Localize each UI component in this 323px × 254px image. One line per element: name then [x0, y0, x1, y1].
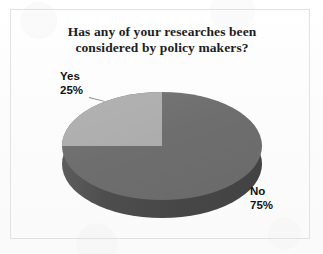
pie-label-yes-name: Yes — [60, 70, 83, 84]
pie-label-no-value: 75% — [250, 199, 273, 213]
pie-slice-yes[interactable] — [62, 92, 162, 146]
chart-screenshot: Has any of your researches been consider… — [0, 0, 323, 254]
chart-title-line-2: considered by policy makers? — [28, 40, 296, 56]
pie-chart — [62, 92, 262, 218]
pie-label-yes-value: 25% — [60, 84, 83, 98]
pie-label-no-name: No — [250, 185, 273, 199]
pie-top-face — [62, 92, 262, 200]
pie-label-yes: Yes 25% — [60, 70, 83, 97]
chart-title: Has any of your researches been consider… — [28, 24, 296, 55]
pie-label-no: No 75% — [250, 185, 273, 212]
chart-title-line-1: Has any of your researches been — [28, 24, 296, 40]
